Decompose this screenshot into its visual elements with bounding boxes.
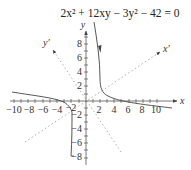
hyperbola-diagram: 2x² + 12xy − 3y² − 42 = 0 x′ y′ x −10 −8… (0, 0, 191, 170)
y-tick: −2 (71, 109, 82, 120)
x-axis (10, 99, 177, 103)
y-tick: 4 (77, 66, 82, 77)
x-axis-label: x (179, 95, 185, 106)
y-tick: −4 (71, 123, 82, 134)
y-tick-labels: 8 6 4 2 −2 −4 −6 −8 (71, 38, 82, 162)
hyperbola-branch-right (94, 22, 172, 108)
x-tick: −6 (38, 104, 49, 115)
x-tick: 2 (97, 104, 102, 115)
y-tick: −8 (71, 151, 82, 162)
y-prime-label: y′ (42, 37, 50, 48)
x-tick: 8 (140, 104, 145, 115)
x-tick: 6 (126, 104, 131, 115)
y-tick: −6 (71, 137, 82, 148)
x-prime-label: x′ (162, 43, 170, 54)
y-tick: 6 (77, 52, 82, 63)
y-axis-label: y (80, 19, 86, 30)
x-tick: 4 (112, 104, 117, 115)
y-tick: 8 (77, 38, 82, 49)
x-tick: −10 (6, 104, 22, 115)
x-tick: −8 (24, 104, 35, 115)
equation-title: 2x² + 12xy − 3y² − 42 = 0 (60, 7, 179, 20)
y-tick: 2 (77, 80, 82, 91)
x-tick: −4 (52, 104, 63, 115)
